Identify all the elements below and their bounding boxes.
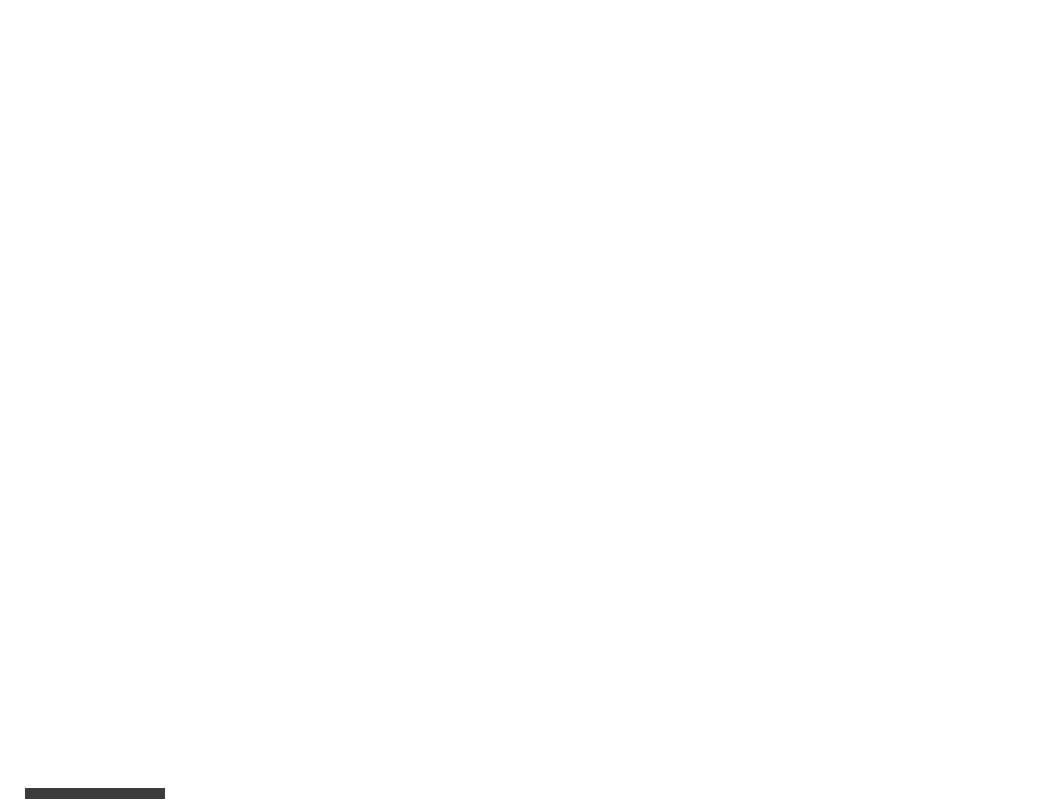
chart-panel-top [0,40,650,400]
chart-panel-bottom [0,405,650,765]
figure-root [0,0,1062,799]
bottom-chart-plot [0,405,650,765]
rainforest-canopy-image [666,18,1036,776]
rainforest-canopy-photo [666,18,1036,776]
cropped-dark-bar [25,788,165,799]
top-chart-plot [0,40,650,400]
